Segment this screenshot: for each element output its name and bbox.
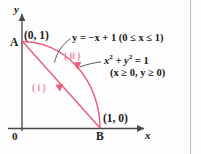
leader-line-to-circle-equation: [80, 62, 102, 67]
y-axis-label: y: [14, 4, 19, 15]
geometry-figure: y x 0 A (0, 1) B (1, 0) y = −x + 1 (0 ≤ …: [0, 0, 201, 154]
circle-equation-domain-label: (x ≥ 0, y ≥ 0): [110, 68, 165, 79]
point-b-label: B: [96, 131, 104, 143]
figure-right-border: [190, 0, 191, 154]
path-ii-direction-arrowhead: [75, 63, 81, 69]
line-equation-label: y = −x + 1 (0 ≤ x ≤ 1): [72, 33, 164, 44]
x-axis-label: x: [145, 130, 151, 141]
origin-label: 0: [12, 131, 18, 142]
path-i-direction-arrowhead: [56, 85, 62, 91]
path-ii-roman-label: ( ii ): [64, 52, 80, 62]
point-b-coordinate-label: (1, 0): [103, 113, 128, 125]
circle-equation-plus-y: + y: [113, 55, 129, 66]
circle-equation-label: x2 + y2 = 1: [104, 54, 149, 66]
point-a-coordinate-label: (0, 1): [24, 30, 49, 42]
arc-leader-contact-dot: [78, 66, 80, 68]
path-i-roman-label: ( i ): [32, 84, 46, 94]
point-a-label: A: [10, 37, 18, 49]
circle-equation-equals-one: = 1: [132, 55, 148, 66]
